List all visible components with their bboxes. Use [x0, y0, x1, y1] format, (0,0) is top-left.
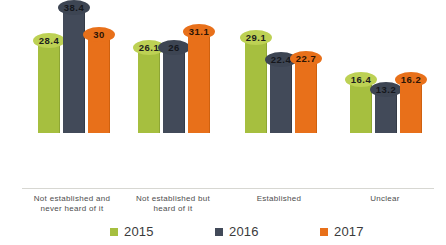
bar-slot-2015: 26.1: [138, 2, 160, 133]
bar-group-established: 29.1 22.4 22.7: [245, 2, 321, 133]
data-label-2017: 22.7: [290, 51, 322, 66]
data-label-2016: 13.2: [370, 82, 402, 97]
bar-2015[interactable]: [350, 80, 372, 133]
bar-2015[interactable]: [245, 38, 267, 133]
bar-2016[interactable]: [163, 48, 185, 133]
bar-2017[interactable]: [88, 35, 110, 133]
bar-slot-2015: 28.4: [38, 2, 60, 133]
bar-slot-2016: 22.4: [270, 2, 292, 133]
data-label-2017: 16.2: [395, 72, 427, 87]
bar-slot-2016: 26: [163, 2, 185, 133]
bar-slot-2016: 13.2: [375, 2, 397, 133]
bar-slot-2017: 16.2: [400, 2, 422, 133]
legend-label: 2015: [124, 224, 154, 239]
legend: 2015 2016 2017: [0, 222, 446, 245]
bar-2016[interactable]: [63, 8, 85, 133]
bar-slot-2015: 29.1: [245, 2, 267, 133]
legend-item-2017[interactable]: 2017: [320, 224, 364, 239]
legend-item-2016[interactable]: 2016: [215, 224, 259, 239]
legend-swatch-icon: [215, 228, 223, 236]
x-axis-label-not-established-heard: Not established but heard of it: [113, 194, 233, 214]
bar-2015[interactable]: [138, 48, 160, 133]
data-label-2015: 29.1: [240, 30, 272, 45]
bar-2017[interactable]: [188, 32, 210, 133]
x-axis-label-established: Established: [219, 194, 339, 204]
bar-slot-2017: 31.1: [188, 2, 210, 133]
data-label-2017: 30: [83, 27, 115, 42]
data-label-2015: 28.4: [33, 33, 65, 48]
bar-group-not-established-heard: 26.1 26 31.1: [138, 2, 214, 133]
data-label-2016: 26: [158, 40, 190, 55]
x-axis-line: [22, 188, 434, 189]
legend-swatch-icon: [320, 228, 328, 236]
bar-2015[interactable]: [38, 41, 60, 133]
bar-2017[interactable]: [400, 80, 422, 133]
legend-label: 2017: [334, 224, 364, 239]
x-axis-label-line2: heard of it: [113, 204, 233, 214]
x-axis-label-unclear: Unclear: [325, 194, 445, 204]
x-axis-label-line1: Not established but: [113, 194, 233, 204]
legend-label: 2016: [229, 224, 259, 239]
bar-2016[interactable]: [270, 60, 292, 133]
x-axis-label-line1: Unclear: [325, 194, 445, 204]
bar-2017[interactable]: [295, 59, 317, 133]
data-label-2017: 31.1: [183, 24, 215, 39]
bar-chart: 28.4 38.4 30 26.1 26 31.1: [0, 0, 446, 245]
bar-slot-2017: 22.7: [295, 2, 317, 133]
bar-slot-2017: 30: [88, 2, 110, 133]
legend-item-2015[interactable]: 2015: [110, 224, 154, 239]
bar-group-not-established-never-heard: 28.4 38.4 30: [38, 2, 114, 133]
bar-slot-2015: 16.4: [350, 2, 372, 133]
x-axis-label-line1: Established: [219, 194, 339, 204]
bar-group-unclear: 16.4 13.2 16.2: [350, 2, 426, 133]
legend-swatch-icon: [110, 228, 118, 236]
bar-slot-2016: 38.4: [63, 2, 85, 133]
plot-area: 28.4 38.4 30 26.1 26 31.1: [0, 0, 446, 190]
data-label-2016: 38.4: [58, 0, 90, 15]
